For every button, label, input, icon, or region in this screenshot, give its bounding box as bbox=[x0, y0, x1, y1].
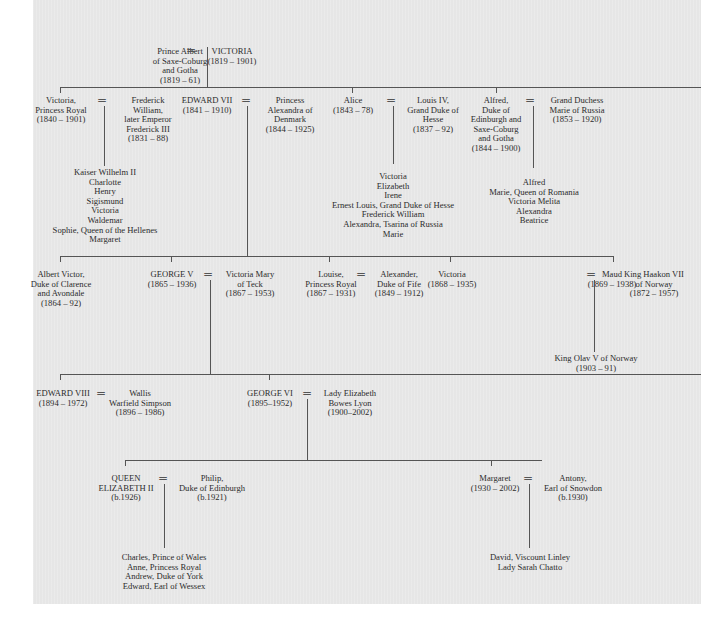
descent-line bbox=[269, 374, 270, 380]
descent-line bbox=[125, 460, 126, 466]
sibling-line bbox=[60, 256, 614, 257]
marriage-symbol: = bbox=[586, 269, 596, 279]
person-wallis-simpson: Wallis Warfield Simpson (1896 – 1986) bbox=[100, 389, 180, 418]
descent-line bbox=[171, 256, 172, 262]
sibling-line bbox=[125, 460, 542, 461]
person-marie-of-russia: Grand Duchess Marie of Russia (1853 – 19… bbox=[538, 96, 616, 125]
marriage-symbol: = bbox=[241, 95, 251, 105]
person-alfred: Alfred, Duke of Edinburgh and Saxe-Cobur… bbox=[458, 96, 534, 154]
marriage-symbol: = bbox=[356, 269, 366, 279]
descent-line bbox=[210, 280, 211, 374]
marriage-symbol: = bbox=[525, 95, 535, 105]
marriage-symbol: = bbox=[186, 45, 196, 55]
descent-line bbox=[104, 106, 105, 166]
person-margaret: Margaret (1930 – 2002) bbox=[464, 474, 526, 493]
descent-line bbox=[60, 87, 61, 93]
descent-line bbox=[307, 399, 308, 460]
descent-line bbox=[329, 256, 330, 262]
marriage-symbol: = bbox=[97, 95, 107, 105]
descent-line bbox=[352, 87, 353, 93]
person-mary-of-teck: Victoria Mary of Teck (1867 – 1953) bbox=[216, 270, 284, 299]
person-alexandra-of-denmark: Princess Alexandra of Denmark (1844 – 19… bbox=[253, 96, 327, 134]
person-george-v: GEORGE V (1865 – 1936) bbox=[140, 270, 204, 289]
descent-line bbox=[164, 484, 165, 548]
marriage-symbol: = bbox=[523, 473, 533, 483]
person-albert-victor: Albert Victor, Duke of Clarence and Avon… bbox=[20, 270, 102, 308]
descent-line bbox=[491, 460, 492, 466]
marriage-symbol: = bbox=[203, 269, 213, 279]
person-philip: Philip, Duke of Edinburgh (b.1921) bbox=[170, 474, 254, 503]
children-list-elizabeth-ii: Charles, Prince of Wales Anne, Princess … bbox=[112, 553, 216, 591]
person-victoria-1868: Victoria (1868 – 1935) bbox=[420, 270, 484, 289]
marriage-symbol: = bbox=[386, 95, 396, 105]
children-list-frederick: Kaiser Wilhelm II Charlotte Henry Sigism… bbox=[40, 168, 170, 245]
marriage-symbol: = bbox=[302, 388, 312, 398]
sibling-line bbox=[60, 87, 701, 88]
descent-line bbox=[207, 47, 208, 88]
marriage-symbol: = bbox=[158, 473, 168, 483]
descent-line bbox=[613, 256, 614, 262]
sibling-line bbox=[60, 374, 701, 375]
descent-line bbox=[529, 484, 530, 548]
descent-line bbox=[496, 87, 497, 93]
descent-line bbox=[533, 106, 534, 168]
children-list-alfred: Alfred Marie, Queen of Romania Victoria … bbox=[478, 178, 590, 226]
descent-line bbox=[450, 256, 451, 262]
children-list-margaret: David, Viscount Linley Lady Sarah Chatto bbox=[480, 553, 580, 572]
family-tree-panel bbox=[33, 0, 701, 604]
descent-line bbox=[60, 374, 61, 380]
person-george-vi: GEORGE VI (1895–1952) bbox=[240, 389, 300, 408]
person-olav-v: King Olav V of Norway (1903 – 91) bbox=[540, 354, 652, 373]
person-haakon-vii: King Haakon VII of Norway (1872 – 1957) bbox=[612, 270, 696, 299]
descent-line bbox=[247, 106, 248, 256]
descent-line bbox=[594, 280, 595, 352]
descent-line bbox=[60, 256, 61, 262]
person-louise: Louise, Princess Royal (1867 – 1931) bbox=[298, 270, 364, 299]
descent-line bbox=[393, 106, 394, 164]
person-queen-elizabeth-ii: QUEEN ELIZABETH II (b.1926) bbox=[95, 474, 157, 503]
children-list-alice: Victoria Elizabeth Irene Ernest Louis, G… bbox=[318, 172, 468, 239]
person-victoria-princess-royal: Victoria, Princess Royal (1840 – 1901) bbox=[20, 96, 102, 125]
person-antony: Antony, Earl of Snowdon (b.1930) bbox=[536, 474, 610, 503]
person-elizabeth-bowes-lyon: Lady Elizabeth Bowes Lyon (1900–2002) bbox=[314, 389, 386, 418]
person-alice: Alice (1843 – 78) bbox=[322, 96, 384, 115]
person-edward-vii: EDWARD VII (1841 – 1910) bbox=[175, 96, 239, 115]
person-edward-viii: EDWARD VIII (1894 – 1972) bbox=[32, 389, 94, 408]
